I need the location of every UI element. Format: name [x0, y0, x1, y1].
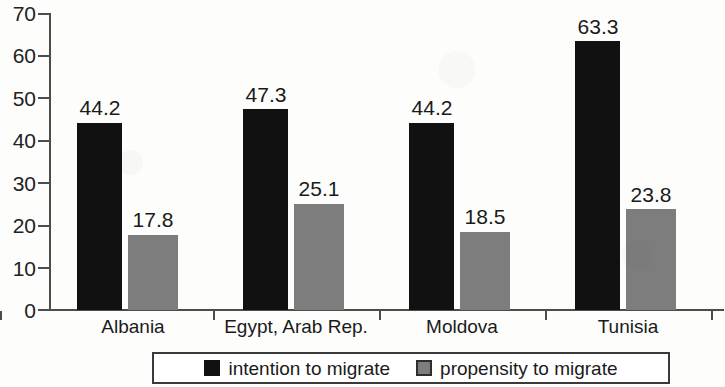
- x-axis-label-albania: Albania: [50, 316, 216, 338]
- y-tick-label-40: 40: [0, 130, 36, 151]
- bar-moldova-intention: [409, 123, 454, 311]
- y-axis-tick-20: [38, 225, 49, 227]
- bar-chart: 70 60 50 40 30 20 10 0 44.2: [0, 0, 725, 387]
- x-axis-tick-4: [711, 311, 713, 320]
- x-axis-label-egypt: Egypt, Arab Rep.: [213, 316, 379, 338]
- value-label-egypt-intention: 47.3: [233, 84, 299, 105]
- value-label-albania-propensity: 17.8: [120, 209, 186, 230]
- y-axis-tick-30: [38, 182, 49, 184]
- y-tick-label-70: 70: [0, 3, 36, 24]
- legend-label-propensity: propensity to migrate: [440, 358, 617, 379]
- bar-tunisia-intention: [575, 41, 620, 310]
- bar-egypt-intention: [243, 109, 288, 310]
- value-label-moldova-intention: 44.2: [399, 97, 465, 118]
- value-label-moldova-propensity: 18.5: [452, 206, 518, 227]
- y-tick-label-30: 30: [0, 173, 36, 194]
- x-axis-label-moldova: Moldova: [379, 316, 545, 338]
- bar-egypt-propensity: [294, 204, 344, 311]
- legend-entry-propensity: propensity to migrate: [416, 358, 617, 379]
- y-tick-label-0: 0: [0, 300, 36, 321]
- y-tick-label-20: 20: [0, 215, 36, 236]
- bar-moldova-propensity: [460, 232, 510, 311]
- y-axis-tick-labels: 70 60 50 40 30 20 10 0: [0, 0, 36, 387]
- y-tick-label-10: 10: [0, 258, 36, 279]
- plot-area: 44.2 17.8 47.3 25.1 44.2 18.5 63.3 23.8: [49, 13, 721, 310]
- x-axis-tick-2: [0, 311, 2, 320]
- bar-albania-intention: [77, 123, 122, 311]
- y-axis-tick-50: [38, 97, 49, 99]
- bar-albania-propensity: [128, 235, 178, 311]
- chart-legend: intention to migrate propensity to migra…: [152, 352, 670, 384]
- value-label-tunisia-propensity: 23.8: [618, 184, 684, 205]
- y-tick-label-60: 60: [0, 45, 36, 66]
- y-axis-tick-60: [38, 55, 49, 57]
- value-label-egypt-propensity: 25.1: [286, 178, 352, 199]
- x-axis-label-tunisia: Tunisia: [545, 316, 711, 338]
- bar-tunisia-propensity: [626, 209, 676, 310]
- y-axis-tick-70: [38, 13, 49, 15]
- legend-label-intention: intention to migrate: [228, 358, 390, 379]
- value-label-albania-intention: 44.2: [67, 97, 133, 118]
- dark-square-icon: [204, 360, 220, 376]
- gray-square-icon: [416, 360, 432, 376]
- y-axis-tick-40: [38, 140, 49, 142]
- y-tick-label-50: 50: [0, 88, 36, 109]
- legend-entry-intention: intention to migrate: [204, 358, 390, 379]
- y-axis-tick-10: [38, 267, 49, 269]
- value-label-tunisia-intention: 63.3: [565, 16, 631, 37]
